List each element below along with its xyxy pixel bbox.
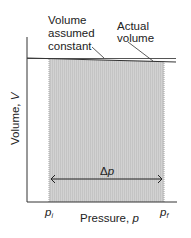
p-initial-label: pi	[44, 206, 53, 219]
actual-label-line1: Actual	[117, 20, 149, 32]
p-final-label: pf	[159, 206, 169, 219]
actual-label-line2: volume	[117, 32, 154, 44]
assumed-leader-line	[92, 47, 104, 58]
shaded-work-region	[49, 59, 164, 202]
y-axis-label: Volume, V	[9, 91, 21, 145]
assumed-label-line3: constant	[48, 40, 92, 52]
assumed-label-line2: assumed	[48, 27, 95, 39]
pressure-volume-diagram: Volume assumed constant Actual volume Δp…	[0, 0, 191, 238]
delta-p-label: Δp	[100, 165, 115, 177]
x-axis-label: Pressure, p	[80, 212, 139, 224]
assumed-label-line1: Volume	[48, 14, 86, 26]
